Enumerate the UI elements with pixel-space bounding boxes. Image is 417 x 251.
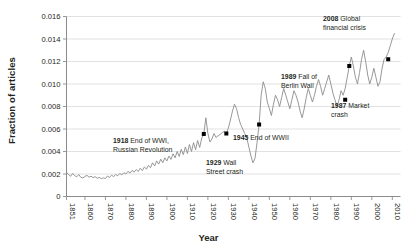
annotation-1918: 1918 End of WWI,Russian Revolution xyxy=(113,136,172,154)
annotation-text: End of WWI, xyxy=(128,137,169,144)
annotation-text-line2: Russian Revolution xyxy=(113,146,172,153)
annotation-year: 2008 xyxy=(323,15,338,22)
svg-text:1920: 1920 xyxy=(209,203,218,220)
y-axis: 00.0020.0040.0060.0080.0100.0120.0140.01… xyxy=(41,12,66,201)
y-axis-title-text: Fraction of articles xyxy=(6,57,17,144)
y-axis-title: Fraction of articles xyxy=(2,0,20,200)
svg-text:1890: 1890 xyxy=(147,203,156,220)
annotation-1989: 1989 Fall ofBerlin Wall xyxy=(281,72,317,90)
annotation-year: 1989 xyxy=(281,73,296,80)
annotation-2008: 2008 Globalfinancial crisis xyxy=(323,14,366,32)
annotation-1987: 1987 Marketcrash xyxy=(331,101,369,119)
svg-text:1860: 1860 xyxy=(86,203,95,220)
x-axis-title: Year xyxy=(0,232,417,243)
event-marker xyxy=(347,64,351,68)
annotation-year: 1987 xyxy=(331,102,346,109)
svg-text:1930: 1930 xyxy=(229,203,238,220)
x-axis: 1851186018701880189019001910192019301940… xyxy=(67,197,403,220)
svg-text:1970: 1970 xyxy=(311,203,320,220)
svg-text:2000: 2000 xyxy=(373,203,382,220)
event-marker xyxy=(224,132,228,136)
annotation-text-line2: Berlin Wall xyxy=(281,82,314,89)
svg-text:1990: 1990 xyxy=(352,203,361,220)
annotation-text: Market xyxy=(346,102,369,109)
event-marker xyxy=(257,123,261,127)
svg-text:1940: 1940 xyxy=(250,203,259,220)
event-marker xyxy=(202,132,206,136)
svg-text:1851: 1851 xyxy=(68,203,77,220)
svg-text:0.002: 0.002 xyxy=(41,170,60,179)
event-marker xyxy=(386,57,390,61)
annotation-year: 1945 xyxy=(233,134,248,141)
svg-text:0.012: 0.012 xyxy=(41,57,60,66)
svg-text:0: 0 xyxy=(56,192,60,201)
svg-text:0.014: 0.014 xyxy=(41,35,60,44)
svg-text:2010: 2010 xyxy=(393,203,402,220)
svg-text:1980: 1980 xyxy=(332,203,341,220)
annotation-year: 1918 xyxy=(113,137,128,144)
annotation-text-line2: financial crisis xyxy=(323,24,366,31)
svg-text:1960: 1960 xyxy=(291,203,300,220)
annotation-1929: 1929 WallStreet crash xyxy=(206,158,243,176)
svg-text:1870: 1870 xyxy=(106,203,115,220)
annotation-text: Wall xyxy=(221,159,236,166)
svg-text:1900: 1900 xyxy=(168,203,177,220)
annotation-text-line2: crash xyxy=(331,111,348,118)
svg-text:0.010: 0.010 xyxy=(41,80,60,89)
line-chart-canvas: 00.0020.0040.0060.0080.0100.0120.0140.01… xyxy=(0,0,417,251)
svg-text:0.004: 0.004 xyxy=(41,147,60,156)
svg-text:0.016: 0.016 xyxy=(41,12,60,21)
chart-figure: 00.0020.0040.0060.0080.0100.0120.0140.01… xyxy=(0,0,417,251)
annotation-text-line2: Street crash xyxy=(206,168,243,175)
annotation-text: Global xyxy=(338,15,360,22)
svg-text:1950: 1950 xyxy=(270,203,279,220)
svg-text:1910: 1910 xyxy=(188,203,197,220)
annotation-text: End of WWII xyxy=(248,134,289,141)
annotation-year: 1929 xyxy=(206,159,221,166)
annotation-text: Fall of xyxy=(296,73,317,80)
svg-text:1880: 1880 xyxy=(127,203,136,220)
annotation-1945: 1945 End of WWII xyxy=(233,133,289,142)
svg-text:0.006: 0.006 xyxy=(41,125,60,134)
svg-text:0.008: 0.008 xyxy=(41,102,60,111)
